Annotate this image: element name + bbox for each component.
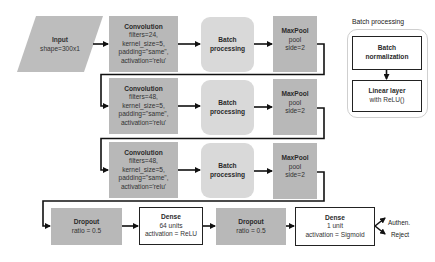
batch-node-1: Batch processing	[201, 17, 254, 72]
conv-param: filters=48,	[129, 93, 158, 102]
conv-param: padding="same",	[119, 110, 169, 119]
maxpool-title: MaxPool	[281, 154, 308, 163]
linear-title: Linear layer	[368, 87, 405, 96]
batch-label: Batch	[218, 36, 236, 45]
dense-activation: activation = ReLU	[145, 230, 197, 239]
dropout-ratio: ratio = 0.5	[236, 227, 266, 236]
maxpool-title: MaxPool	[281, 27, 308, 36]
dense-node-1: Dense 1 unit activation = Sigmoid	[295, 207, 375, 246]
input-title: Input	[52, 35, 68, 44]
batch-panel-title: Batch processing	[352, 18, 404, 25]
conv-title: Convolution	[124, 149, 162, 158]
conv-param: filters=48,	[129, 157, 158, 166]
conv-param: kernel_size=5,	[122, 40, 165, 49]
batch-label: processing	[210, 108, 245, 117]
batch-label: processing	[210, 45, 245, 54]
maxpool-node-3: MaxPool pool side=2	[273, 143, 317, 199]
batch-node-2: Batch processing	[201, 80, 254, 135]
linear-detail: with ReLU()	[370, 96, 405, 105]
maxpool-param: pool	[289, 163, 301, 172]
batch-norm-label: normalization	[366, 53, 409, 62]
output-reject: Reject	[391, 231, 409, 238]
maxpool-param: pool	[289, 36, 301, 45]
batch-norm-label: Batch	[378, 44, 396, 53]
dropout-node-1: Dropout ratio = 0.5	[51, 208, 122, 245]
dropout-title: Dropout	[238, 218, 264, 227]
conv-param: padding="same",	[119, 174, 169, 183]
conv-param: padding="same",	[119, 48, 169, 57]
dense-node-64: Dense 64 units activation = ReLU	[139, 207, 203, 245]
linear-layer-node: Linear layer with ReLU()	[352, 80, 422, 112]
dropout-node-2: Dropout ratio = 0.5	[216, 208, 286, 245]
conv-param: activation='relu'	[121, 183, 166, 192]
batch-norm-node: Batch normalization	[352, 36, 422, 70]
maxpool-param: pool	[289, 99, 301, 108]
dense-title: Dense	[325, 214, 345, 223]
conv-title: Convolution	[124, 23, 162, 32]
dropout-ratio: ratio = 0.5	[72, 227, 102, 236]
maxpool-param: side=2	[285, 171, 305, 180]
batch-node-3: Batch processing	[201, 143, 254, 198]
conv-title: Convolution	[124, 85, 162, 94]
conv-param: kernel_size=5,	[122, 102, 165, 111]
conv-param: activation='relu'	[121, 57, 166, 66]
batch-label: Batch	[218, 162, 236, 171]
maxpool-param: side=2	[285, 44, 305, 53]
dense-units: 1 unit	[327, 222, 343, 231]
dense-units: 64 units	[159, 222, 182, 231]
conv-param: kernel_size=5,	[122, 166, 165, 175]
input-node: Input shape=300x1	[17, 16, 103, 72]
dense-title: Dense	[161, 213, 181, 222]
maxpool-param: side=2	[285, 107, 305, 116]
maxpool-node-2: MaxPool pool side=2	[273, 79, 317, 135]
dense-activation: activation = Sigmoid	[305, 231, 364, 240]
output-authen: Authen.	[388, 219, 410, 226]
dropout-title: Dropout	[74, 218, 100, 227]
input-shape: shape=300x1	[40, 44, 80, 53]
conv-node-3: Convolution filters=48, kernel_size=5, p…	[109, 142, 178, 198]
maxpool-title: MaxPool	[281, 90, 308, 99]
conv-param: filters=24,	[129, 31, 158, 40]
batch-label: processing	[210, 171, 245, 180]
batch-label: Batch	[218, 99, 236, 108]
conv-node-2: Convolution filters=48, kernel_size=5, p…	[109, 78, 178, 134]
conv-node-1: Convolution filters=24, kernel_size=5, p…	[109, 16, 178, 72]
maxpool-node-1: MaxPool pool side=2	[273, 16, 317, 72]
conv-param: activation='relu'	[121, 119, 166, 128]
